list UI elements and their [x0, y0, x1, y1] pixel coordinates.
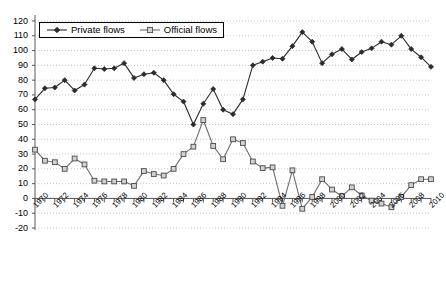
gridlines	[35, 21, 431, 228]
legend-item: Official flows	[139, 25, 217, 35]
y-axis-tick-label: 50	[2, 120, 28, 129]
y-axis-tick-label: 30	[2, 150, 28, 159]
square-marker-icon	[139, 25, 161, 35]
y-axis-tick-label: 20	[2, 164, 28, 173]
y-axis-tick-label: 90	[2, 61, 28, 70]
y-axis-tick-label: -10	[2, 209, 28, 218]
y-axis-tick-label: 120	[2, 17, 28, 26]
y-axis-tick-label: 40	[2, 135, 28, 144]
diamond-marker-icon	[46, 25, 68, 35]
y-axis-tick-label: 0	[2, 194, 28, 203]
y-axis-tick-label: 100	[2, 46, 28, 55]
legend-label: Official flows	[164, 25, 217, 35]
y-axis-tick-label: 70	[2, 90, 28, 99]
legend-item: Private flows	[46, 25, 125, 35]
y-axis-tick-label: -20	[2, 224, 28, 233]
y-axis-tick-label: 60	[2, 105, 28, 114]
chart-legend: Private flowsOfficial flows	[39, 22, 224, 38]
legend-label: Private flows	[71, 25, 125, 35]
y-axis-tick-label: 80	[2, 76, 28, 85]
y-axis-tick-label: 110	[2, 31, 28, 40]
y-axis-tick-label: 10	[2, 179, 28, 188]
series-private-flows	[33, 30, 434, 127]
